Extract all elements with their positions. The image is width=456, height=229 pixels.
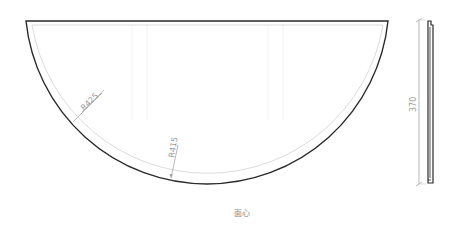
- height-dimension-label: 370: [409, 97, 418, 112]
- height-dimension: 370: [409, 18, 426, 186]
- radius-r415-annotation: R415: [167, 136, 179, 178]
- radius-r425-label: R425: [79, 91, 100, 112]
- radius-r415-label: R415: [167, 136, 179, 158]
- technical-drawing: R425 R415 370: [0, 0, 456, 229]
- drawing-caption: 面心: [234, 207, 250, 218]
- construction-lines: [132, 24, 283, 120]
- tabletop-outline: [26, 21, 388, 184]
- radius-r425-annotation: R425: [73, 90, 104, 122]
- side-view-profile: [428, 21, 433, 183]
